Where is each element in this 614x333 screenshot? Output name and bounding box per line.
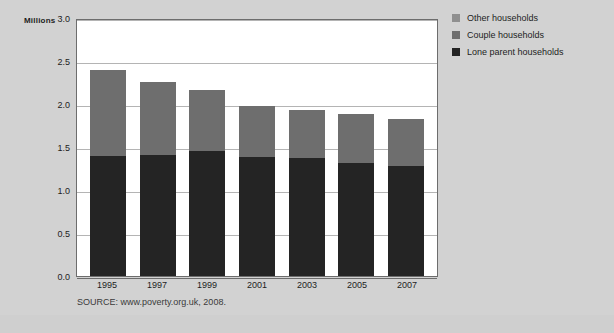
y-axis-tick-label: 0.0	[10, 272, 70, 282]
plot-area	[76, 19, 438, 277]
bar-group[interactable]	[90, 20, 126, 276]
bar-segment[interactable]	[289, 110, 325, 158]
bar-segment[interactable]	[90, 156, 126, 276]
bar-group[interactable]	[189, 20, 225, 276]
bar-segment[interactable]	[140, 155, 176, 276]
chart-legend: Other householdsCouple householdsLone pa…	[452, 12, 608, 63]
bar-segment[interactable]	[90, 70, 126, 156]
y-axis-tick-label: 2.0	[10, 100, 70, 110]
bar-segment[interactable]	[189, 90, 225, 151]
legend-item[interactable]: Other households	[452, 12, 608, 24]
legend-item[interactable]: Lone parent households	[452, 46, 608, 58]
legend-item[interactable]: Couple households	[452, 29, 608, 41]
bar-segment[interactable]	[338, 114, 374, 163]
y-axis-tick-label: 1.0	[10, 186, 70, 196]
bar-segment[interactable]	[338, 163, 374, 276]
bar-segment[interactable]	[239, 157, 275, 276]
bar-group[interactable]	[338, 20, 374, 276]
x-axis-tick-label: 1997	[139, 280, 175, 296]
bar-group[interactable]	[388, 20, 424, 276]
bar-segment[interactable]	[388, 119, 424, 166]
bar-series-layer	[77, 20, 437, 276]
bar-segment[interactable]	[140, 82, 176, 155]
x-axis-tick-label: 1999	[189, 280, 225, 296]
chart-figure: Millions 3.02.52.01.51.00.50.0 199519971…	[0, 0, 614, 315]
x-axis-tick-labels: 1995199719992001200320052007	[76, 280, 438, 296]
y-axis-tick-label: 0.5	[10, 229, 70, 239]
bar-group[interactable]	[289, 20, 325, 276]
bar-segment[interactable]	[289, 158, 325, 276]
legend-swatch-icon	[452, 14, 460, 22]
source-note: SOURCE: www.poverty.org.uk, 2008.	[77, 297, 226, 307]
legend-swatch-icon	[452, 48, 460, 56]
bar-segment[interactable]	[388, 166, 424, 276]
y-axis-tick-label: 1.5	[10, 143, 70, 153]
y-axis-tick-labels: 3.02.52.01.51.00.50.0	[8, 19, 70, 277]
x-axis-tick-label: 2005	[339, 280, 375, 296]
y-axis-tick-label: 2.5	[10, 57, 70, 67]
x-axis-tick-label: 2007	[389, 280, 425, 296]
x-axis-tick-label: 1995	[89, 280, 125, 296]
gridline	[77, 278, 437, 279]
legend-item-label: Lone parent households	[467, 47, 564, 57]
bar-segment[interactable]	[239, 106, 275, 158]
legend-swatch-icon	[452, 31, 460, 39]
bar-segment[interactable]	[189, 151, 225, 276]
x-axis-tick-label: 2001	[239, 280, 275, 296]
legend-item-label: Other households	[467, 13, 538, 23]
x-axis-tick-label: 2003	[289, 280, 325, 296]
y-axis-tick-label: 3.0	[10, 14, 70, 24]
bar-group[interactable]	[239, 20, 275, 276]
legend-item-label: Couple households	[467, 30, 544, 40]
bar-group[interactable]	[140, 20, 176, 276]
